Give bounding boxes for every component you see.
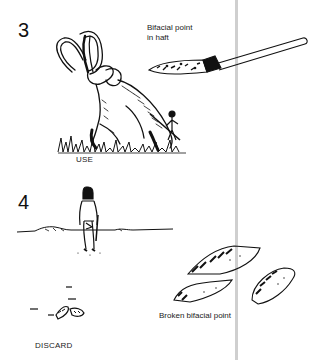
step-number-4: 4 [18,192,29,212]
discarded-fragments-illustration [28,285,108,335]
broken-bifacial-points-illustration [160,240,317,320]
caption-discard: DISCARD [35,341,72,351]
hunter-with-spear-illustration [158,110,194,150]
step-number-3: 3 [18,20,29,40]
broken-point-fragment-1 [188,246,260,274]
callout-broken-point: Broken bifacial point [159,311,231,321]
caption-use: USE [76,155,93,165]
walking-hunter-illustration [70,185,110,265]
hafted-bifacial-point-illustration [145,30,315,80]
